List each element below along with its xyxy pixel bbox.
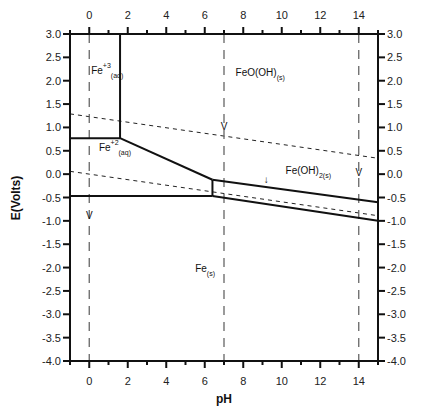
y-tick-label-left: 0.0 — [46, 168, 61, 180]
x-tick-label-bottom: 14 — [353, 375, 365, 387]
x-tick-label-top: 14 — [353, 9, 365, 21]
y-tick-label-right: -2.0 — [387, 262, 406, 274]
y-tick-label-right: 2.0 — [387, 75, 402, 87]
y-tick-label-left: -0.5 — [42, 192, 61, 204]
y-tick-label-left: 2.5 — [46, 51, 61, 63]
x-tick-label-bottom: 8 — [240, 375, 246, 387]
x-tick-label-top: 8 — [240, 9, 246, 21]
y-tick-label-left: -2.0 — [42, 262, 61, 274]
x-tick-label-bottom: 0 — [86, 375, 92, 387]
line-feo-oh-fe2- — [120, 138, 212, 180]
region-label-fe-s-: Fe(s) — [195, 263, 215, 278]
x-tick-label-bottom: 2 — [125, 375, 131, 387]
y-tick-label-left: 0.5 — [46, 145, 61, 157]
y-tick-label-right: -2.5 — [387, 285, 406, 297]
x-tick-label-top: 6 — [202, 9, 208, 21]
y-tick-label-right: -1.0 — [387, 215, 406, 227]
v-marker-icon: V — [355, 167, 362, 178]
x-tick-label-top: 0 — [86, 9, 92, 21]
v-marker-icon: V — [86, 210, 93, 221]
y-tick-label-right: -3.0 — [387, 308, 406, 320]
line-h-h2 — [70, 171, 378, 215]
arrow-down-icon: ↓ — [264, 174, 269, 185]
x-tick-label-top: 2 — [125, 9, 131, 21]
y-tick-label-right: 2.5 — [387, 51, 402, 63]
x-tick-label-bottom: 12 — [314, 375, 326, 387]
y-tick-label-right: 0.0 — [387, 168, 402, 180]
y-tick-label-left: -1.0 — [42, 215, 61, 227]
y-tick-label-right: 1.5 — [387, 98, 402, 110]
y-tick-label-left: -4.0 — [42, 355, 61, 367]
x-tick-label-bottom: 10 — [276, 375, 288, 387]
y-tick-label-left: -3.0 — [42, 308, 61, 320]
region-label-feo-oh-s-: FeO(OH)(s) — [236, 67, 285, 82]
y-tick-label-right: -3.5 — [387, 332, 406, 344]
x-tick-label-top: 4 — [163, 9, 169, 21]
x-tick-label-top: 12 — [314, 9, 326, 21]
region-label-fe-oh-2-s-: Fe(OH)2(s) — [286, 165, 331, 180]
region-label-fe-3-aq-: Fe+3(aq) — [91, 62, 123, 80]
pourbaix-chart: 00224466881010121214143.03.02.52.52.02.0… — [0, 0, 424, 411]
x-axis-title: pH — [216, 392, 232, 406]
y-tick-label-right: -1.5 — [387, 238, 406, 250]
x-tick-label-bottom: 6 — [202, 375, 208, 387]
x-tick-label-bottom: 4 — [163, 375, 169, 387]
y-tick-label-right: 0.5 — [387, 145, 402, 157]
y-tick-label-right: 1.0 — [387, 121, 402, 133]
x-tick-label-top: 10 — [276, 9, 288, 21]
y-tick-label-right: -4.0 — [387, 355, 406, 367]
y-tick-label-right: -0.5 — [387, 192, 406, 204]
y-tick-label-right: 3.0 — [387, 28, 402, 40]
region-labels: Fe+3(aq)FeO(OH)(s)Fe+2(aq)Fe(OH)2(s)Fe(s… — [91, 62, 331, 279]
y-tick-label-left: -2.5 — [42, 285, 61, 297]
y-tick-label-left: -3.5 — [42, 332, 61, 344]
y-tick-label-left: 1.0 — [46, 121, 61, 133]
v-marker-icon: V — [221, 121, 228, 132]
y-tick-label-left: -1.5 — [42, 238, 61, 250]
y-axis-title: E(Volts) — [9, 176, 23, 220]
y-tick-label-left: 1.5 — [46, 98, 61, 110]
y-tick-label-left: 3.0 — [46, 28, 61, 40]
y-tick-label-left: 2.0 — [46, 75, 61, 87]
